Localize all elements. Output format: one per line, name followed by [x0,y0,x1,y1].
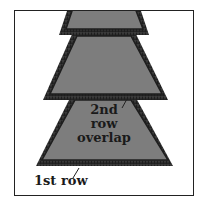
first-row-label: 1st row [34,174,88,188]
third-row-shape [59,5,149,35]
second-row-shape [43,32,168,100]
second-row-overlap-label: 2nd row overlap [76,103,132,145]
second-row-label-line2: overlap [76,131,132,145]
second-row-label-line1: 2nd row [76,103,132,131]
